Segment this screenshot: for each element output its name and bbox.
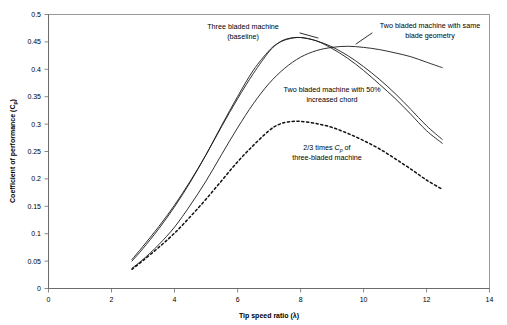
annot-two-thirds-line1: 2/3 times Cp of [303,143,350,153]
annot-two-bladed-chord-line1: Two bladed machine with 50% [283,85,381,94]
annot-two-thirds-post: of [343,143,351,152]
x-tick-label-2: 4 [173,296,177,303]
y-tick-label-8: 0.4 [31,66,41,73]
series-line-2 [132,46,442,268]
y-axis-title-tail: ) [9,99,17,101]
x-axis-ticks [49,289,490,293]
x-axis-title: Tip speed ratio (λ) [239,312,299,320]
x-tick-label-0: 0 [47,296,51,303]
annot-two-bladed-chord-line2: increased chord [306,95,357,104]
y-axis-title: Coefficient of performance (Cp) [9,99,18,203]
x-tick-label-6: 12 [423,296,431,303]
annotation-two-bladed-same-geometry: Two bladed machine with same blade geome… [380,21,480,40]
y-tick-label-5: 0.25 [27,148,41,155]
y-tick-label-6: 0.3 [31,121,41,128]
annot-three-bladed-line1: Three bladed machine [207,22,279,31]
y-tick-label-10: 0.5 [31,11,41,18]
annot-two-bladed-same-line2: blade geometry [405,31,455,40]
series-line-1 [132,37,442,261]
annot-two-thirds-pre: 2/3 times [303,143,334,152]
y-tick-label-9: 0.45 [27,38,41,45]
annotation-three-bladed: Three bladed machine (baseline) [207,22,279,41]
annotation-two-thirds-cp: 2/3 times Cp of three-bladed machine [292,143,362,162]
x-tick-label-1: 2 [110,296,114,303]
y-axis-title-main: Coefficient of performance (C [9,105,17,203]
x-tick-label-7: 14 [486,296,494,303]
annot-two-thirds-line2: three-bladed machine [292,153,362,162]
y-tick-label-7: 0.35 [27,93,41,100]
y-tick-label-3: 0.15 [27,203,41,210]
y-tick-label-2: 0.1 [31,230,41,237]
x-tick-label-4: 8 [299,296,303,303]
annot-three-bladed-line2: (baseline) [227,32,259,41]
plot-frame [49,15,490,289]
performance-coefficient-chart: 0 0.05 0.1 0.15 0.2 0.25 0.3 0.35 0.4 0.… [0,0,507,325]
annotation-two-bladed-increased-chord: Two bladed machine with 50% increased ch… [283,85,381,104]
y-tick-label-1: 0.05 [27,258,41,265]
curves-group [132,37,442,269]
series-line-0 [132,37,442,259]
x-tick-label-3: 6 [236,296,240,303]
series-line-3 [132,121,442,269]
chart-container: 0 0.05 0.1 0.15 0.2 0.25 0.3 0.35 0.4 0.… [0,0,507,325]
y-tick-label-0: 0 [37,285,41,292]
annotation-leader-lines [300,33,372,44]
annot-two-bladed-same-line1: Two bladed machine with same [380,21,480,30]
y-axis-ticks [45,15,49,289]
y-tick-label-4: 0.2 [31,175,41,182]
x-tick-label-5: 10 [360,296,368,303]
